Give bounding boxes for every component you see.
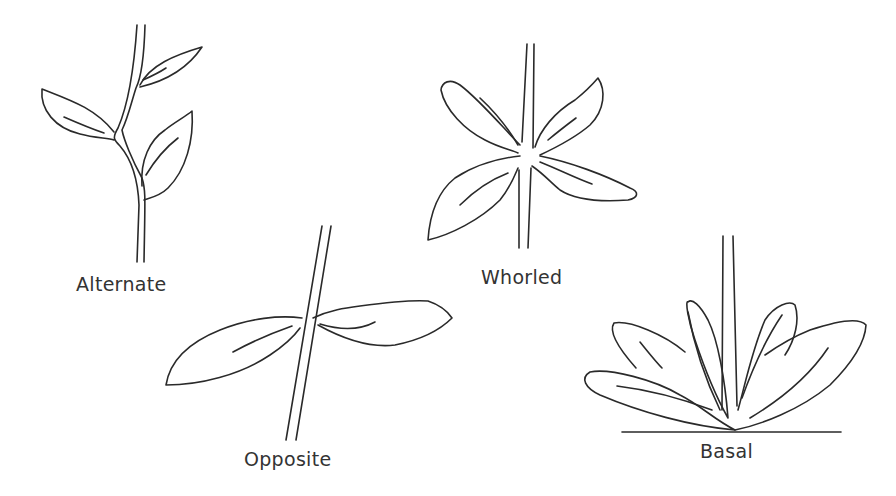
whorled-leaf-top-left (441, 81, 520, 153)
opposite-illustration (166, 226, 452, 440)
alternate-leaf-top (140, 47, 202, 87)
whorled-leaf-bottom-left (428, 156, 520, 240)
basal-illustration (585, 236, 866, 432)
whorled-illustration (428, 44, 637, 248)
alternate-illustration (42, 25, 202, 262)
leaf-arrangement-diagram (0, 0, 896, 496)
alternate-label: Alternate (76, 273, 166, 295)
opposite-stem-left (286, 226, 322, 440)
whorled-label: Whorled (481, 266, 562, 288)
opposite-label: Opposite (244, 448, 331, 470)
basal-label: Basal (700, 440, 753, 462)
basal-leaf-back-left (612, 323, 685, 368)
whorled-leaf-bottom-right (532, 156, 637, 201)
whorled-leaf-top-right (535, 78, 603, 155)
basal-leaf-bottom-right (735, 321, 866, 430)
basal-leaf-mid-right (738, 303, 797, 410)
opposite-leaf-right (313, 301, 452, 346)
basal-leaf-bottom-left (585, 371, 735, 430)
alternate-leaf-lower (142, 111, 193, 200)
opposite-stem-right (296, 226, 331, 440)
